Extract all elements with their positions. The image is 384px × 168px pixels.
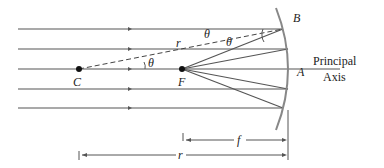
label-theta-c: θ [148, 56, 154, 70]
label-theta-b2: θ [226, 35, 232, 49]
label-principal: Principal [313, 54, 357, 68]
label-a: A [296, 65, 305, 79]
label-axis: Axis [323, 70, 346, 84]
label-f-dim: f [237, 133, 242, 147]
center-point-c [76, 66, 82, 72]
label-r-dim: r [178, 148, 183, 162]
label-f: F [177, 75, 186, 89]
label-theta-b1: θ [204, 27, 210, 41]
label-b: B [293, 11, 301, 25]
label-c: C [73, 75, 82, 89]
label-radius: r [176, 36, 181, 50]
concave-mirror-diagram: B A C F r θ θ θ Principal Axis f r [0, 0, 384, 168]
incident-rays [18, 29, 290, 108]
dimension-lines [79, 110, 288, 160]
focal-point-f [179, 66, 185, 72]
